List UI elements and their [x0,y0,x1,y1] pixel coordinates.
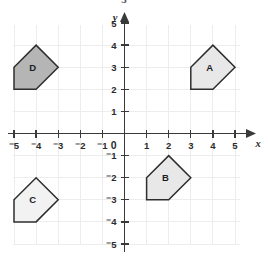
y-tick-label: 2 [111,84,116,95]
shape-label-c: C [29,194,36,205]
y-tick-label: 5 [111,18,117,29]
y-tick-label: ⁻5 [106,239,117,250]
x-tick-label: ⁻4 [31,140,42,151]
x-axis-name: x [254,138,260,149]
plot-canvas: xy ABCD ⁻5⁻4⁻3⁻2⁻11234554321⁻1⁻2⁻3⁻4⁻50 [0,0,268,261]
y-tick-label: ⁻3 [106,194,116,205]
x-axis-arrowhead [246,129,256,138]
shape-label-d: D [29,62,36,73]
x-tick-label: ⁻3 [53,140,63,151]
x-tick-label: 1 [144,140,150,151]
x-tick-label: ⁻5 [9,140,20,151]
y-tick-label: 4 [111,40,117,51]
x-tick-label: 5 [232,140,238,151]
y-tick-label: 3 [111,62,116,73]
x-tick-label: ⁻2 [75,140,85,151]
y-tick-label: 1 [111,106,117,117]
x-tick-label: 2 [166,140,171,151]
x-tick-label: ⁻1 [97,140,108,151]
origin-label: 0 [111,139,117,151]
y-tick-label: ⁻1 [106,150,117,161]
shape-label-a: A [206,62,213,73]
x-tick-label: 3 [188,140,193,151]
y-tick-label: ⁻2 [106,172,116,183]
x-tick-label: 4 [210,140,216,151]
coordinate-plane-figure: 5 xy ABCD ⁻5⁻4⁻3⁻2⁻11234554321⁻1⁻2⁻3⁻4⁻5… [0,0,268,261]
y-tick-label: ⁻4 [106,216,117,227]
shape-label-b: B [162,172,169,183]
y-axis-arrowhead [120,12,129,22]
axes: xy [8,12,261,252]
